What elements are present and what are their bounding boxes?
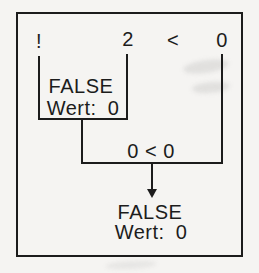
step1-result-label: FALSE — [49, 76, 114, 96]
stem-step1-result — [81, 120, 83, 164]
token-not-operator: ! — [36, 31, 42, 51]
token-operand-0: 0 — [216, 30, 228, 50]
scanned-diagram-page: ! 2 < 0 FALSE Wert: 0 0 < 0 FALSE Wert: … — [0, 0, 259, 273]
step2-expression-label: 0 < 0 — [127, 141, 175, 161]
branch-line-0 — [221, 54, 223, 164]
branch-line-2 — [126, 54, 128, 120]
result-arrow-stem — [151, 164, 153, 190]
scan-artifact — [105, 260, 157, 271]
step1-value-label: Wert: 0 — [47, 98, 120, 118]
branch-line-not — [38, 56, 40, 120]
final-value-label: Wert: 0 — [115, 222, 188, 242]
token-operand-2: 2 — [122, 29, 134, 49]
final-result-label: FALSE — [118, 202, 183, 222]
down-arrow-icon — [147, 189, 157, 198]
token-less-than-operator: < — [167, 30, 179, 50]
